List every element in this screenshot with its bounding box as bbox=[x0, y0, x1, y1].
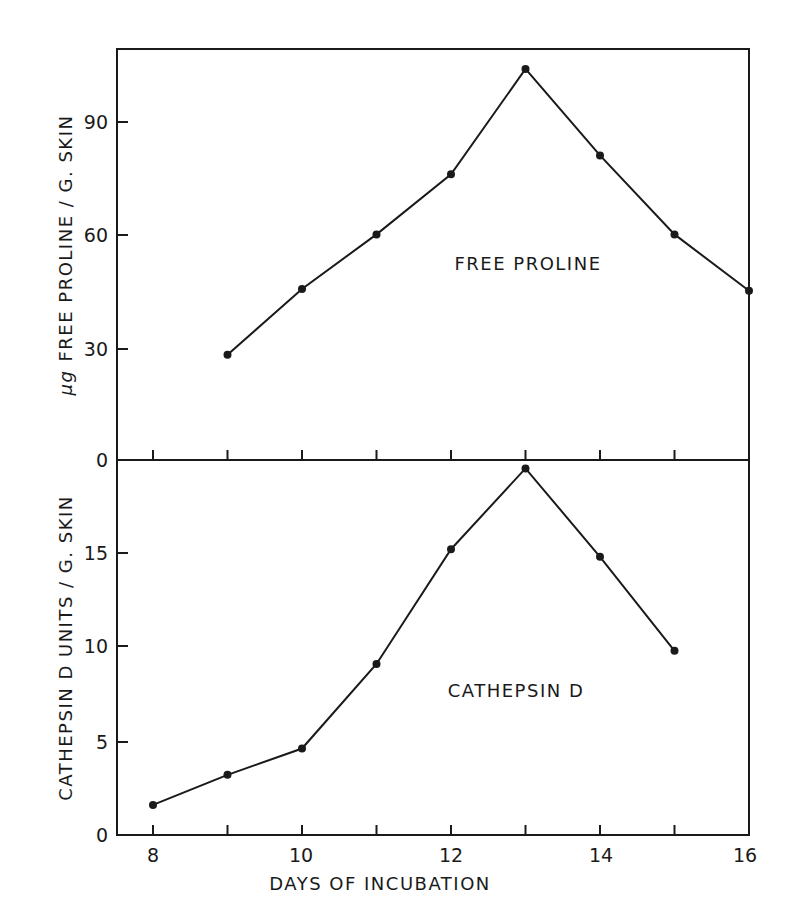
svg-text:μgFREE PROLINE / G. SKIN: μgFREE PROLINE / G. SKIN bbox=[55, 115, 76, 397]
ytick-90: 90 bbox=[84, 111, 108, 133]
data-point bbox=[596, 151, 604, 159]
top-y-axis-title: μgFREE PROLINE / G. SKIN bbox=[55, 115, 76, 397]
ytick-15: 15 bbox=[84, 542, 108, 564]
data-point bbox=[373, 660, 381, 668]
chart-figure: 90 60 30 0 15 10 5 0 8 10 12 14 16 DAYS … bbox=[0, 0, 789, 924]
x-tick-labels: 8 10 12 14 16 bbox=[147, 844, 757, 866]
ytick-0-bottom: 0 bbox=[96, 824, 108, 846]
xtick-12: 12 bbox=[439, 844, 463, 866]
data-point bbox=[298, 285, 306, 293]
bottom-y-axis-title: CATHEPSIN D UNITS / G. SKIN bbox=[55, 495, 76, 801]
data-point bbox=[522, 65, 530, 73]
series-line bbox=[228, 69, 750, 355]
free-proline-annotation: FREE PROLINE bbox=[454, 253, 601, 274]
data-point bbox=[224, 351, 232, 359]
xtick-10: 10 bbox=[289, 844, 313, 866]
mu-prefix: μg bbox=[55, 370, 76, 397]
data-point bbox=[522, 464, 530, 472]
data-point bbox=[447, 545, 455, 553]
ytick-60: 60 bbox=[84, 224, 108, 246]
data-point bbox=[745, 287, 753, 295]
data-point bbox=[596, 553, 604, 561]
xtick-8: 8 bbox=[147, 844, 159, 866]
ytick-0-top: 0 bbox=[96, 449, 108, 471]
free-proline-series bbox=[224, 65, 754, 359]
svg-text:CATHEPSIN D UNITS / G. SKIN: CATHEPSIN D UNITS / G. SKIN bbox=[55, 495, 76, 801]
ytick-5: 5 bbox=[96, 731, 108, 753]
data-point bbox=[671, 647, 679, 655]
plot-frame bbox=[117, 49, 749, 835]
data-point bbox=[298, 745, 306, 753]
ytick-10: 10 bbox=[84, 635, 108, 657]
data-point bbox=[447, 170, 455, 178]
bottom-x-ticks bbox=[153, 825, 675, 835]
bottom-y-ticks bbox=[117, 553, 128, 742]
xtick-16: 16 bbox=[733, 844, 757, 866]
x-axis-title: DAYS OF INCUBATION bbox=[269, 873, 491, 894]
data-point bbox=[671, 230, 679, 238]
data-point bbox=[149, 801, 157, 809]
data-point bbox=[373, 230, 381, 238]
xtick-14: 14 bbox=[589, 844, 613, 866]
top-y-ticks bbox=[117, 122, 128, 349]
middle-x-ticks bbox=[153, 450, 675, 460]
cathepsin-d-series bbox=[149, 464, 679, 809]
cathepsin-d-annotation: CATHEPSIN D bbox=[448, 680, 585, 701]
ytick-30: 30 bbox=[84, 338, 108, 360]
data-point bbox=[224, 771, 232, 779]
series-line bbox=[153, 468, 675, 805]
top-y-tick-labels: 90 60 30 0 bbox=[84, 111, 108, 471]
bottom-y-tick-labels: 15 10 5 0 bbox=[84, 542, 108, 846]
